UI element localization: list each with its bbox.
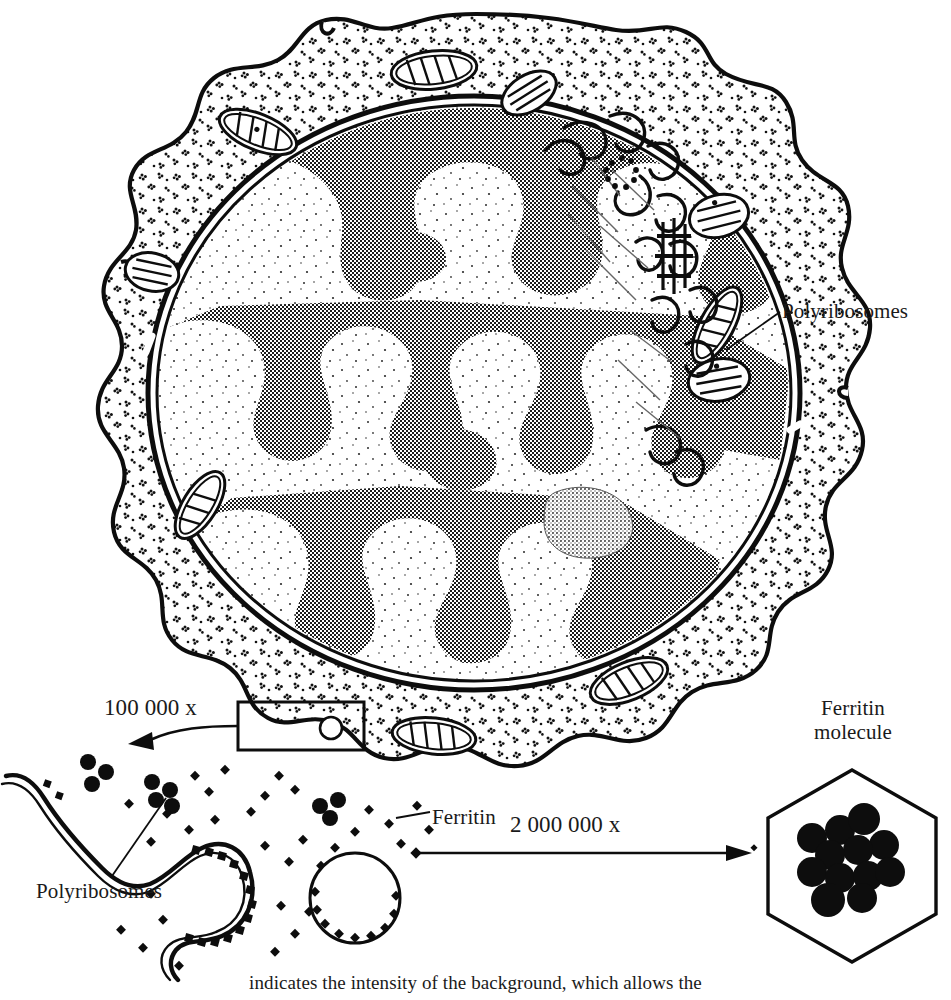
vesicle <box>320 717 342 739</box>
ferritin-molecule-diagram <box>750 770 936 962</box>
label-magnification-molecule: 2 000 000 x <box>510 812 620 838</box>
figure-canvas: Polyribosomes Polyribosomes Ferritin 100… <box>0 0 951 1000</box>
label-polyribosomes-right: Polyribosomes <box>782 300 908 324</box>
figure-caption: indicates the intensity of the backgroun… <box>0 972 951 998</box>
inset-cytoplasm-detail <box>2 754 434 980</box>
label-polyribosomes-bottom: Polyribosomes <box>36 880 162 904</box>
cell-diagram-svg <box>0 0 951 1000</box>
label-ferritin-molecule: Ferritin molecule <box>768 697 938 744</box>
vesicle-inset <box>310 853 401 943</box>
label-ferritin-molecule-line2: molecule <box>814 720 892 744</box>
label-ferritin-molecule-line1: Ferritin <box>821 696 885 720</box>
polyribosome-clusters <box>80 754 346 826</box>
leader-polyribosomes-bottom <box>112 798 166 876</box>
ferritin-hexagon <box>768 770 936 962</box>
label-magnification-cell: 100 000 x <box>104 695 197 721</box>
magnification-arrow-molecule <box>410 845 752 861</box>
label-ferritin: Ferritin <box>432 806 496 830</box>
cell <box>98 14 870 766</box>
magnification-arrow-cell <box>128 726 238 750</box>
leader-ferritin <box>396 812 430 818</box>
